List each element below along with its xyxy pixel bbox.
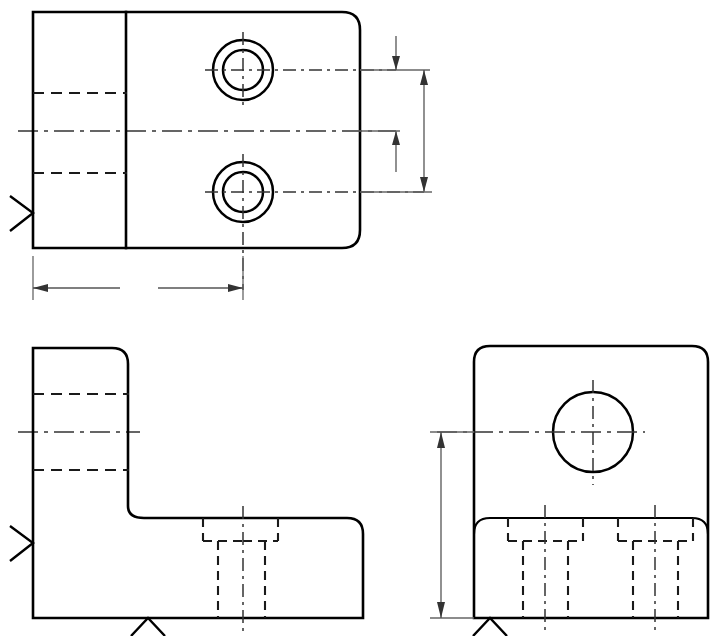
arrow-head-down [420, 177, 428, 192]
arrow-head-up [437, 432, 445, 448]
arrow-head-up [392, 131, 400, 145]
base-step-line [474, 518, 708, 534]
front-view-counterbore-hidden [203, 518, 278, 618]
right-side-view-outline [474, 346, 708, 618]
top-view-outline [33, 12, 360, 248]
dimension-hole-height [430, 432, 474, 618]
arrow-head-left [33, 284, 48, 292]
view-direction-arrow-right [10, 196, 33, 231]
engineering-drawing-sheet [0, 0, 716, 636]
view-direction-arrow-up [473, 618, 507, 636]
dimension-hole-to-centerline [352, 36, 430, 172]
arrow-head-down [437, 602, 445, 618]
top-view [10, 12, 432, 300]
view-direction-arrow-up [131, 618, 165, 636]
counterbore-left-hidden [508, 505, 583, 632]
counterbore-right-hidden [618, 505, 693, 632]
arrow-head-right [228, 284, 243, 292]
right-side-view [430, 346, 708, 636]
counterbored-hole-lower [205, 154, 424, 290]
arrow-head-up [420, 70, 428, 85]
front-view [10, 348, 363, 636]
dimension-edge-to-hole [33, 256, 243, 300]
view-direction-arrow-right [10, 526, 33, 561]
front-view-outline [33, 348, 363, 618]
arrow-head-down [392, 56, 400, 70]
drawing-canvas [0, 0, 716, 636]
